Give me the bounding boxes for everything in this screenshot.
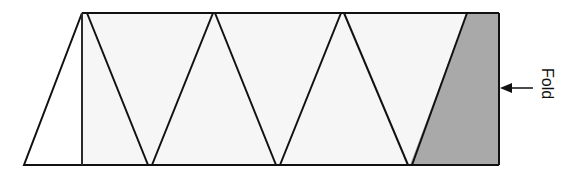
- fold-label: Fold: [539, 68, 556, 99]
- fold-diagram: Fold: [0, 0, 585, 186]
- left-triangle: [24, 13, 82, 165]
- fold-arrow-icon: [500, 83, 533, 93]
